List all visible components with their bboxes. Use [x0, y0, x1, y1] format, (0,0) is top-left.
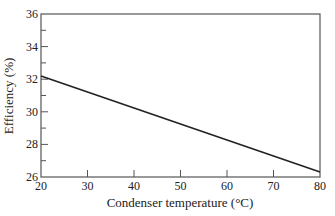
line-chart: 20304050607080262830323436 Condenser tem… — [0, 0, 335, 216]
x-tick-label: 60 — [221, 179, 233, 193]
x-tick-label: 30 — [82, 179, 94, 193]
x-axis-label: Condenser temperature (°C) — [107, 195, 254, 210]
x-tick-label: 80 — [314, 179, 326, 193]
y-tick-label: 28 — [26, 137, 38, 151]
plot-area: 20304050607080262830323436 — [26, 7, 326, 193]
x-tick-label: 50 — [175, 179, 187, 193]
y-tick-label: 36 — [26, 7, 38, 21]
x-tick-label: 70 — [268, 179, 280, 193]
x-tick-label: 40 — [128, 179, 140, 193]
y-tick-label: 30 — [26, 105, 38, 119]
y-axis-label: Efficiency (%) — [1, 58, 16, 135]
y-tick-label: 26 — [26, 170, 38, 184]
efficiency-line — [41, 76, 320, 172]
y-tick-label: 32 — [26, 72, 38, 86]
y-tick-label: 34 — [26, 40, 38, 54]
plot-frame — [41, 14, 320, 177]
